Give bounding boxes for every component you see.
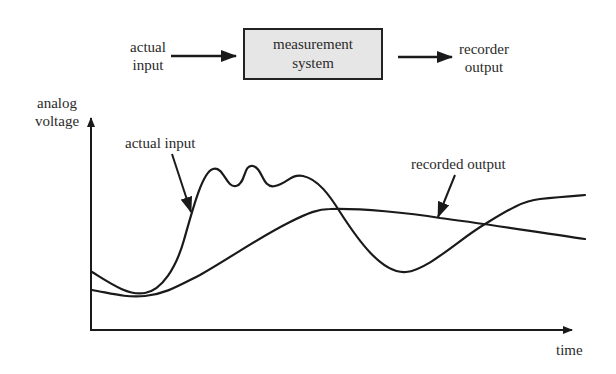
actual-input-pointer xyxy=(172,154,191,212)
recorded-output-curve xyxy=(92,209,585,297)
recorded-output-pointer xyxy=(438,175,455,217)
actual-input-curve xyxy=(92,166,585,294)
diagram-graphics xyxy=(0,0,616,374)
